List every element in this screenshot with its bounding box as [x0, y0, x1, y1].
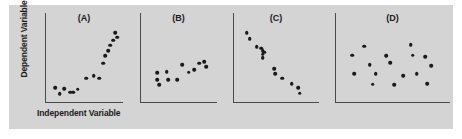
data-point — [350, 53, 354, 57]
data-point — [101, 62, 105, 66]
panel-b-plot-area — [140, 13, 217, 103]
data-point — [248, 37, 252, 41]
data-point — [63, 87, 67, 91]
data-point — [175, 78, 179, 82]
panel-a: (A) — [45, 13, 123, 103]
y-axis-label: Dependent Variable — [19, 0, 29, 80]
data-point — [409, 43, 413, 47]
data-point — [384, 54, 388, 58]
data-point — [187, 70, 191, 74]
data-point — [192, 68, 196, 72]
panel-b: (B) — [140, 13, 217, 103]
data-point — [290, 82, 294, 86]
data-point — [261, 56, 265, 60]
data-point — [54, 86, 58, 90]
data-point — [363, 44, 367, 48]
data-point — [411, 53, 415, 57]
data-point — [205, 65, 209, 69]
data-point — [263, 50, 267, 54]
data-point — [371, 82, 375, 86]
panel-c-plot-area — [233, 13, 319, 103]
panel-a-plot-area — [45, 13, 123, 103]
data-point — [352, 72, 356, 76]
panel-d-plot-area — [335, 13, 450, 103]
data-point — [429, 64, 433, 68]
data-point — [392, 83, 396, 87]
data-point — [197, 62, 201, 66]
data-point — [423, 55, 427, 59]
data-point — [84, 76, 88, 80]
data-point — [97, 76, 101, 80]
data-point — [425, 82, 429, 86]
data-point — [155, 78, 159, 82]
data-point — [245, 31, 249, 35]
data-point — [108, 44, 112, 48]
data-point — [165, 70, 169, 74]
data-point — [104, 54, 108, 58]
data-point — [203, 60, 207, 64]
panel-c: (C) — [233, 13, 319, 103]
data-point — [106, 49, 110, 53]
scatterplot-figure: Dependent Variable Independent Variable … — [9, 5, 453, 129]
data-point — [272, 67, 276, 71]
data-point — [402, 74, 406, 78]
panel-d: (D) — [335, 13, 450, 103]
data-point — [298, 91, 302, 95]
data-point — [181, 63, 185, 67]
data-point — [415, 72, 419, 76]
data-point — [388, 61, 392, 65]
data-point — [368, 63, 372, 67]
data-point — [296, 86, 300, 90]
data-point — [72, 91, 76, 95]
data-point — [92, 74, 96, 78]
data-point — [157, 83, 161, 87]
data-point — [273, 72, 277, 76]
data-point — [113, 31, 117, 35]
data-point — [58, 92, 62, 96]
data-point — [166, 78, 170, 82]
data-point — [155, 71, 159, 75]
data-point — [111, 38, 115, 42]
data-point — [76, 88, 80, 92]
x-axis-label: Independent Variable — [37, 108, 121, 118]
data-point — [374, 72, 378, 76]
data-point — [280, 76, 284, 80]
data-point — [255, 45, 259, 49]
data-point — [115, 35, 119, 39]
